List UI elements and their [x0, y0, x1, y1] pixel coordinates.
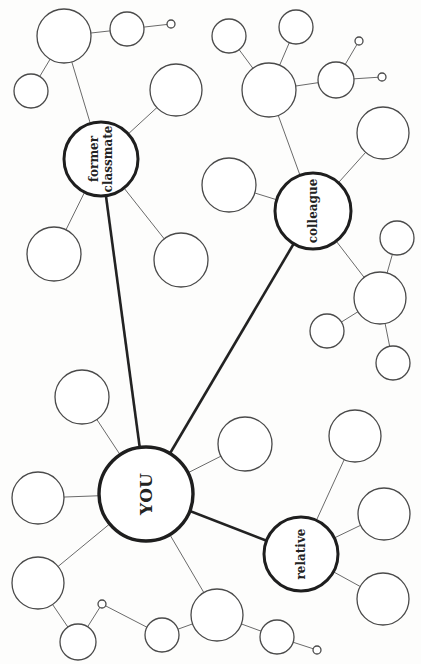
blank-node-fc-hub-right — [110, 12, 144, 46]
primary-node-label: relative — [294, 528, 308, 579]
blank-node-you-ll-small — [60, 624, 96, 660]
label-line: classmate — [101, 125, 115, 192]
blank-node-col-hub-top — [279, 10, 313, 44]
blank-node-col-low-left — [310, 314, 344, 348]
blank-node-col-low-hub — [354, 272, 406, 324]
blank-node-col-low-bottom — [376, 346, 410, 380]
blank-node-col-left — [202, 158, 256, 212]
blank-node-col-low-top — [380, 221, 414, 255]
main-connector-you-to-former-classmate — [101, 159, 146, 494]
blank-node-you-upper-left — [55, 370, 109, 424]
terminal-dot-dot-fc — [167, 20, 175, 28]
blank-node-col-hub — [242, 63, 296, 117]
blank-node-fc-lower-left — [27, 227, 81, 281]
blank-node-fc-hub — [37, 9, 91, 63]
blank-node-rel-bottom — [357, 573, 409, 625]
primary-node-colleague: colleague — [275, 173, 351, 249]
primary-node-relative: relative — [264, 517, 338, 591]
blank-node-you-left — [12, 472, 64, 524]
center-node-label: YOU — [136, 473, 156, 516]
primary-node-label: colleague — [306, 178, 320, 243]
blank-node-you-bottom-mid — [145, 618, 179, 652]
blank-nodes — [12, 9, 414, 660]
blank-node-fc-upper-right — [150, 64, 202, 116]
blank-node-rel-mid — [358, 488, 410, 540]
label-line: former — [87, 135, 101, 182]
terminal-dot-dot-col-2 — [378, 73, 386, 81]
center-node-you: YOU — [99, 447, 193, 541]
terminal-dot-dot-col-1 — [355, 37, 363, 45]
label-line: colleague — [306, 178, 320, 243]
blank-node-col-hub-mid — [318, 62, 354, 98]
blank-node-col-right — [357, 107, 409, 159]
terminal-dot-dot-you-bh — [313, 646, 321, 654]
blank-node-fc-hub-left — [14, 74, 48, 108]
blank-node-you-lower-left — [12, 557, 64, 609]
blank-node-col-hub-left — [212, 19, 246, 53]
blank-node-you-bh-small — [260, 620, 294, 654]
blank-node-rel-top — [329, 410, 381, 462]
blank-node-you-bottom-hub — [191, 589, 243, 641]
blank-node-fc-lower-right — [154, 233, 208, 287]
mind-map-diagram: formerclassmatecolleaguerelative YOU — [0, 0, 421, 664]
label-line: relative — [294, 528, 308, 579]
primary-node-former-classmate: formerclassmate — [64, 122, 138, 196]
blank-node-you-right — [218, 417, 272, 471]
terminal-dot-dot-you-ll — [98, 600, 106, 608]
